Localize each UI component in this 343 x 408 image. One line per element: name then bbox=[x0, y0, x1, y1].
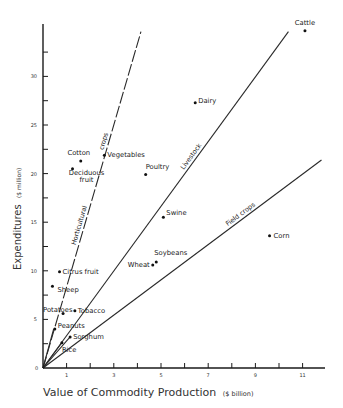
field-crops-line-label: Field crops bbox=[224, 200, 257, 228]
data-point-swine bbox=[162, 216, 165, 219]
livestock-line-label: Livestock bbox=[179, 142, 204, 172]
x-tick-label: 1 bbox=[65, 372, 68, 378]
data-point-citrus-fruit bbox=[58, 270, 61, 273]
data-label-tobacco: Tobacco bbox=[77, 307, 105, 315]
data-point-vegetables bbox=[103, 154, 106, 157]
data-label-soybeans: Soybeans bbox=[154, 249, 187, 257]
data-label-cotton: Cotton bbox=[67, 149, 90, 157]
scatter-chart: 1357911 51015202530 0 CattleDairyVegetab… bbox=[0, 0, 343, 408]
data-label-vegetables: Vegetables bbox=[107, 151, 145, 159]
y-tick-label: 25 bbox=[31, 122, 37, 128]
data-point-peanuts bbox=[53, 328, 56, 331]
x-tick-label: 7 bbox=[207, 372, 210, 378]
data-label-potatoes: Potatoes bbox=[43, 306, 73, 314]
y-tick-label: 20 bbox=[31, 171, 37, 177]
data-label-wheat: Wheat bbox=[128, 261, 150, 269]
data-label-dairy: Dairy bbox=[198, 97, 216, 105]
data-label-citrus-fruit: Citrus fruit bbox=[63, 268, 99, 276]
reference-line-livestock bbox=[43, 32, 288, 368]
x-tick-label: 3 bbox=[112, 372, 115, 378]
y-axis-title: Expenditures ($ million) bbox=[12, 168, 23, 270]
data-points: CattleDairyVegetablesCottonDeciduousfrui… bbox=[43, 19, 315, 354]
x-axis-title-unit: ($ billion) bbox=[223, 390, 254, 398]
origin-tick-label: 0 bbox=[35, 365, 38, 371]
data-label-peanuts: Peanuts bbox=[58, 322, 85, 330]
data-label-sheep: Sheep bbox=[57, 286, 78, 294]
reference-line-horticultural-crops bbox=[43, 32, 141, 368]
data-point-poultry bbox=[144, 173, 147, 176]
axes bbox=[43, 24, 325, 368]
data-point-tobacco bbox=[73, 309, 76, 312]
y-tick-label: 10 bbox=[31, 268, 37, 274]
data-label-cattle: Cattle bbox=[295, 19, 315, 27]
data-label-corn: Corn bbox=[274, 232, 290, 240]
x-tick-label: 11 bbox=[299, 372, 305, 378]
data-label-sorghum: Sorghum bbox=[73, 333, 104, 341]
data-label-poultry: Poultry bbox=[146, 163, 170, 171]
data-point-soybeans bbox=[155, 261, 158, 264]
data-label-swine: Swine bbox=[166, 209, 186, 217]
data-point-cattle bbox=[303, 29, 306, 32]
data-point-sheep bbox=[51, 285, 54, 288]
x-ticks: 1357911 bbox=[65, 363, 306, 378]
y-ticks: 51015202530 bbox=[31, 52, 48, 344]
data-point-corn bbox=[268, 234, 271, 237]
x-tick-label: 9 bbox=[254, 372, 257, 378]
crops-line-label: crops bbox=[98, 131, 111, 151]
data-label-rice: Rice bbox=[62, 346, 77, 354]
data-point-dairy bbox=[194, 101, 197, 104]
horticultural-line-label: Horticultural bbox=[70, 205, 89, 246]
y-axis-title-main: Expenditures bbox=[12, 204, 23, 270]
data-label-deciduous-fruit-line2: fruit bbox=[79, 176, 93, 184]
data-point-rice bbox=[60, 341, 63, 344]
y-tick-label: 5 bbox=[34, 316, 37, 322]
data-point-sorghum bbox=[69, 335, 72, 338]
y-tick-label: 15 bbox=[31, 219, 37, 225]
x-axis-title-main: Value of Commodity Production bbox=[43, 386, 216, 399]
x-tick-label: 5 bbox=[159, 372, 162, 378]
y-tick-label: 30 bbox=[31, 73, 37, 79]
data-point-cotton bbox=[79, 159, 82, 162]
reference-lines bbox=[43, 32, 321, 368]
data-point-wheat bbox=[151, 263, 154, 266]
x-axis-title: Value of Commodity Production ($ billion… bbox=[43, 386, 254, 399]
y-axis-title-unit: ($ million) bbox=[15, 168, 22, 198]
